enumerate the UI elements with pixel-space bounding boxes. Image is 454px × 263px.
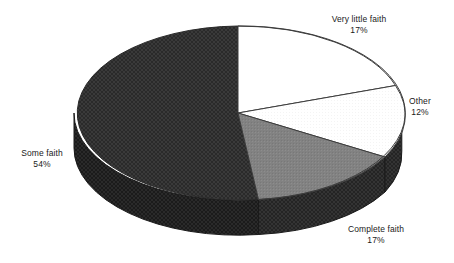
- slice-label-other: Other 12%: [398, 96, 442, 118]
- slice-label-complete-faith: Complete faith 17%: [333, 224, 419, 246]
- slice-label-value: 17%: [333, 235, 419, 246]
- slice-label-value: 54%: [6, 159, 78, 170]
- slice-label-value: 17%: [313, 25, 405, 36]
- slice-label-some-faith: Some faith 54%: [6, 148, 78, 170]
- slice-label-name: Other: [398, 96, 442, 107]
- pie-chart: Very little faith 17% Other 12% Complete…: [0, 0, 454, 263]
- slice-label-name: Complete faith: [333, 224, 419, 235]
- slice-label-name: Very little faith: [313, 14, 405, 25]
- slice-label-name: Some faith: [6, 148, 78, 159]
- slice-label-value: 12%: [398, 107, 442, 118]
- slice-label-very-little-faith: Very little faith 17%: [313, 14, 405, 36]
